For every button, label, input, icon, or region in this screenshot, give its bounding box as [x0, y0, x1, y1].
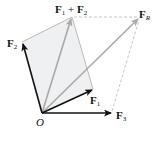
- label-f2: F2: [7, 37, 18, 51]
- label-f3: F3: [116, 109, 127, 123]
- dashed-line-f3-to-fr: [112, 20, 139, 111]
- label-fr: FR: [139, 8, 151, 22]
- label-f1-plus-f2: F1 + F2: [55, 3, 88, 17]
- label-origin: O: [36, 116, 44, 128]
- label-f1: F1: [90, 94, 101, 108]
- vector-addition-diagram: O F1 F2 F3 F1 + F2 FR: [0, 0, 154, 141]
